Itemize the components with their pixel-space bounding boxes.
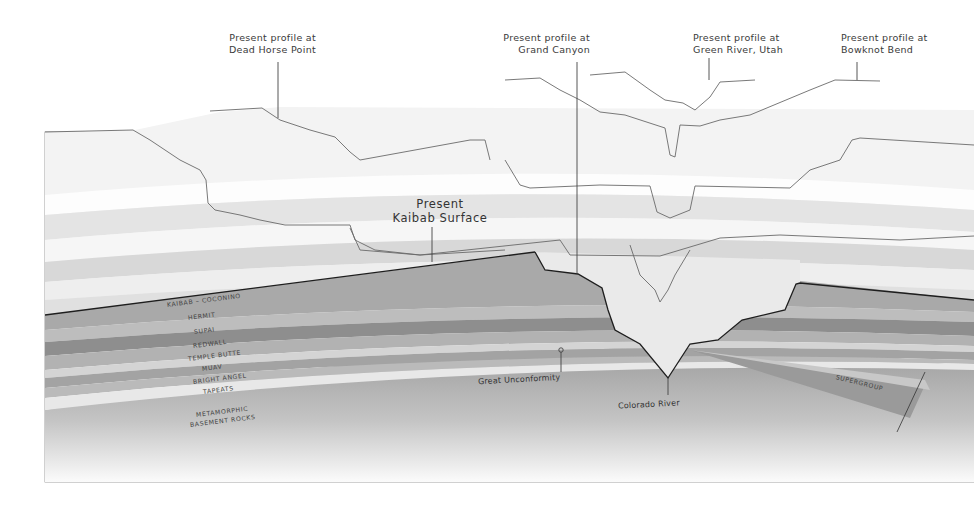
label-line: Present profile at	[841, 32, 961, 44]
label-grand-canyon: Present profile at Grand Canyon	[470, 32, 590, 56]
label-green-river: Present profile at Green River, Utah	[693, 32, 813, 56]
label-line: Kaibab Surface	[380, 211, 500, 225]
label-dead-horse-point: Present profile at Dead Horse Point	[196, 32, 316, 56]
label-line: Grand Canyon	[470, 44, 590, 56]
geologic-cross-section: Present profile at Dead Horse Point Pres…	[0, 0, 974, 512]
label-line: Present profile at	[470, 32, 590, 44]
label-line: Present	[380, 197, 500, 211]
label-line: Bowknot Bend	[841, 44, 961, 56]
cross-section-drawing	[0, 0, 974, 512]
label-line: Present profile at	[693, 32, 813, 44]
label-kaibab-surface: Present Kaibab Surface	[380, 197, 500, 225]
label-line: Dead Horse Point	[196, 44, 316, 56]
label-line: Green River, Utah	[693, 44, 813, 56]
label-bowknot-bend: Present profile at Bowknot Bend	[841, 32, 961, 56]
label-line: Present profile at	[196, 32, 316, 44]
green-river-profile	[590, 72, 755, 110]
